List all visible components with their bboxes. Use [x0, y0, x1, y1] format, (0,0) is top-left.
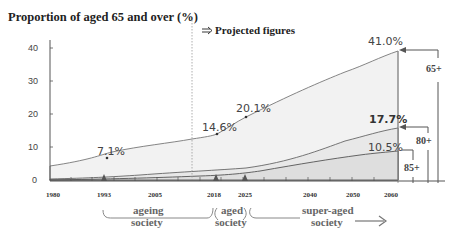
ytick-20: 20 [28, 109, 38, 119]
super-aged-label-2: society [311, 216, 343, 228]
ageing-label-2: society [131, 216, 163, 228]
xtick-2060: 2060 [384, 191, 399, 199]
aged-label-1: aged [221, 204, 243, 216]
chart-canvas: 40 30 20 10 0 1980 1993 2005 2018 2025 2… [0, 0, 461, 241]
annotation-10-5: 10.5% [368, 141, 403, 154]
brace-super [250, 208, 300, 218]
xtick-2050: 2050 [346, 191, 361, 199]
annotation-20-1: 20.1% [236, 102, 271, 115]
annotation-14-6: 14.6% [202, 121, 237, 134]
label-80plus: 80+ [416, 135, 432, 146]
xtick-2025: 2025 [238, 191, 253, 199]
aged-label-2: society [215, 216, 247, 228]
xtick-1980: 1980 [46, 191, 61, 199]
label-85plus: 85+ [404, 162, 420, 173]
ytick-10: 10 [28, 142, 38, 152]
xtick-1993: 1993 [97, 191, 112, 199]
xtick-2005: 2005 [148, 191, 163, 199]
annotation-41-0: 41.0% [368, 35, 403, 48]
ytick-30: 30 [28, 76, 38, 86]
xtick-2040: 2040 [303, 191, 318, 199]
annotation-17-7: 17.7% [369, 113, 407, 126]
projected-figures-label: Projected figures [215, 24, 296, 36]
ytick-0: 0 [32, 175, 37, 185]
xtick-2018: 2018 [207, 191, 222, 199]
ytick-40: 40 [28, 43, 38, 53]
super-aged-label-1: super-aged [302, 204, 354, 216]
label-65plus: 65+ [426, 63, 442, 74]
ageing-label-1: ageing [133, 204, 164, 216]
annotation-7-1: 7.1% [97, 145, 125, 158]
projected-arrow-icon [202, 27, 212, 34]
